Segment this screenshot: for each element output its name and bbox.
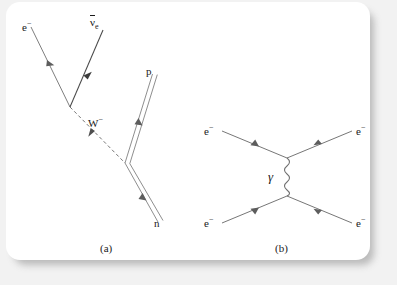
electron-out-top-line	[287, 131, 352, 158]
electron-in-bottom-line	[222, 196, 287, 223]
label-electron-out-bottom-b: e−	[356, 216, 365, 229]
label-neutron-a: n	[154, 218, 160, 229]
w-boson-line-arrow	[88, 128, 95, 137]
label-electron-in-top-b: e−	[204, 124, 213, 137]
electron-out-bottom-line	[287, 196, 352, 223]
electron-in-top-line	[222, 131, 287, 158]
label-electron-out-top-b: e−	[356, 124, 365, 137]
photon-wavy-line	[285, 158, 290, 196]
caption-panel-a: (a)	[100, 243, 112, 254]
label-proton-a: p	[146, 66, 152, 77]
label-electron-a: e−	[22, 20, 31, 33]
neutron-double-line	[125, 163, 163, 222]
figure-root: e− νe W− p n (a) e− e− e− e− γ (b)	[0, 0, 397, 285]
feynman-diagram-svg	[0, 0, 397, 285]
electron-line	[31, 27, 70, 107]
antineutrino-line	[70, 30, 103, 107]
electron-line-arrow	[46, 60, 54, 66]
label-electron-in-bottom-b: e−	[204, 216, 213, 229]
proton-line-arrow	[135, 118, 143, 126]
label-w-boson-a: W−	[88, 116, 103, 129]
neutron-line-arrow	[139, 193, 147, 201]
caption-panel-b: (b)	[275, 243, 288, 254]
label-antineutrino-a: νe	[90, 17, 99, 31]
panel-b-diagram	[222, 131, 352, 223]
proton-double-line	[125, 74, 157, 164]
label-photon-b: γ	[268, 170, 273, 183]
